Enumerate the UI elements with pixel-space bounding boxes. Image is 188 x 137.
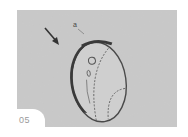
step-badge: 05 <box>17 109 45 127</box>
device-illustration: a <box>17 10 177 127</box>
illustration-panel: a 05 <box>17 10 177 127</box>
step-number: 05 <box>19 115 30 125</box>
callout-label: a <box>73 21 77 28</box>
